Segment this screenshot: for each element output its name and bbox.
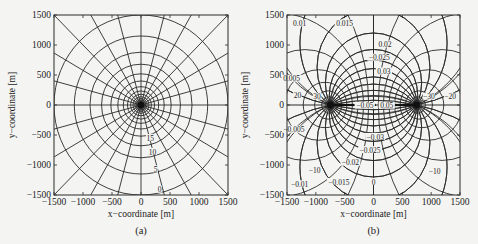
contour-label: −0.015 [328, 178, 349, 187]
contour-label: 30 [313, 92, 321, 101]
contour-label: −10 [429, 167, 441, 176]
x-tick-label: 0 [139, 197, 144, 207]
source-point [327, 102, 334, 109]
contour-label: 0.02 [378, 40, 391, 49]
contour-labels: 151050 [146, 134, 162, 195]
contour-label: −0.025 [369, 53, 390, 62]
y-tick-label: 1000 [265, 40, 284, 50]
contour-label: −0.02 [342, 158, 360, 167]
streamline [267, 95, 478, 244]
y-tick-label: 0 [279, 100, 284, 110]
x-tick-label: −500 [102, 197, 122, 207]
y-tick-label: −1000 [27, 160, 52, 170]
contour-label: 15 [147, 134, 155, 143]
axes: −1500−1000−500050010001500−1500−1000−500… [27, 10, 238, 207]
contour-label: −0.03 [367, 133, 385, 142]
contour-plot-b: −1500−1000−500050010001500−1500−1000−500… [233, 0, 478, 244]
y-tick-label: −1000 [260, 160, 285, 170]
contour-label: 0.03 [377, 67, 390, 76]
y-axis-label: y−coordinate [m] [240, 72, 250, 138]
y-tick-label: 0 [46, 100, 51, 110]
panel-caption: (b) [367, 225, 380, 237]
y-tick-label: 1000 [32, 40, 51, 50]
contour-label: 0 [158, 185, 162, 194]
contour-label: 0.005 [283, 74, 300, 83]
y-tick-label: 500 [37, 70, 52, 80]
x-tick-label: 0 [371, 197, 376, 207]
x-tick-label: −1000 [304, 197, 329, 207]
y-tick-label: −1500 [260, 190, 285, 200]
x-tick-label: −1000 [71, 197, 96, 207]
streamline [51, 105, 141, 198]
contour-label: 20 [294, 91, 302, 100]
x-axis-label: x−coordinate [m] [340, 209, 406, 219]
streamline [51, 12, 141, 105]
x-tick-label: 1000 [422, 197, 441, 207]
contour-label: 0.05 [380, 101, 393, 110]
panel-caption: (a) [135, 225, 147, 237]
contour-label: −30 [423, 92, 435, 101]
contour-plot-a: −1500−1000−500050010001500−1500−1000−500… [0, 0, 239, 244]
x-axis-label: x−coordinate [m] [108, 209, 174, 219]
contour-label: −10 [309, 166, 321, 175]
y-tick-label: −500 [31, 130, 51, 140]
contour-labels: 0.010.0150.02−0.0250.030.0052030−0.050.0… [282, 19, 457, 189]
panel-b: −1500−1000−500050010001500−1500−1000−500… [233, 0, 472, 244]
contour-label: −20 [444, 92, 456, 101]
contour-label: 10 [149, 148, 157, 157]
x-tick-label: 1500 [451, 197, 470, 207]
contour-label: 0.015 [336, 19, 353, 28]
y-tick-label: −1500 [27, 190, 52, 200]
x-tick-label: 500 [395, 197, 410, 207]
streamline [141, 12, 231, 105]
y-tick-label: 1500 [32, 10, 51, 20]
panel-a: −1500−1000−500050010001500−1500−1000−500… [0, 0, 239, 244]
contour-label: −0.025 [359, 146, 380, 155]
x-tick-label: −500 [335, 197, 355, 207]
source-point [413, 102, 420, 109]
x-tick-label: 500 [163, 197, 178, 207]
y-tick-label: 1500 [265, 10, 284, 20]
contour-label: 0 [372, 178, 376, 187]
contour-label: 0.01 [293, 19, 306, 28]
x-tick-label: 1000 [190, 197, 209, 207]
contour-label: 5 [154, 165, 158, 174]
contour-label: −0.05 [356, 101, 374, 110]
y-tick-label: −500 [264, 130, 284, 140]
source-point [138, 102, 144, 108]
y-axis-label: y−coordinate [m] [7, 72, 17, 138]
contour-label: −0.01 [291, 180, 309, 189]
